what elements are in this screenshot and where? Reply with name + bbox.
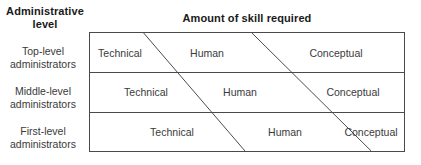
row-divider-1	[90, 72, 404, 73]
amount-of-skill-required-heading: Amount of skill required	[89, 12, 405, 25]
administrative-level-heading: Administrativelevel	[2, 5, 88, 31]
cell-row1-human: Human	[223, 86, 257, 98]
cell-row1-conceptual: Conceptual	[326, 86, 379, 98]
skills-by-administrative-level-figure: Administrativelevel Amount of skill requ…	[0, 0, 421, 165]
cell-row2-conceptual: Conceptual	[344, 126, 397, 138]
cell-row0-technical: Technical	[98, 47, 142, 59]
cell-row0-conceptual: Conceptual	[309, 47, 362, 59]
cell-row2-technical: Technical	[150, 126, 194, 138]
row-label-middle-level-administrators: Middle-leveladministrators	[0, 85, 86, 110]
cell-row1-technical: Technical	[124, 86, 168, 98]
cell-row2-human: Human	[268, 126, 302, 138]
cell-row0-human: Human	[190, 47, 224, 59]
row-divider-2	[90, 112, 404, 113]
skill-matrix: Technical Human Conceptual Technical Hum…	[89, 32, 405, 152]
row-label-top-level-administrators: Top-leveladministrators	[0, 45, 86, 70]
row-label-first-level-administrators: First-leveladministrators	[0, 125, 86, 150]
